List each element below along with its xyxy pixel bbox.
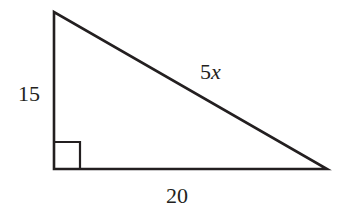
hypotenuse-label: 5x bbox=[200, 59, 221, 84]
hypotenuse-variable: x bbox=[210, 59, 221, 84]
triangle bbox=[54, 12, 327, 169]
hypotenuse-coefficient: 5 bbox=[200, 59, 211, 84]
vertical-leg-label: 15 bbox=[18, 81, 40, 106]
horizontal-leg-label: 20 bbox=[166, 183, 188, 208]
right-angle-marker bbox=[54, 142, 80, 169]
right-triangle-diagram: 15 5x 20 bbox=[0, 0, 339, 216]
